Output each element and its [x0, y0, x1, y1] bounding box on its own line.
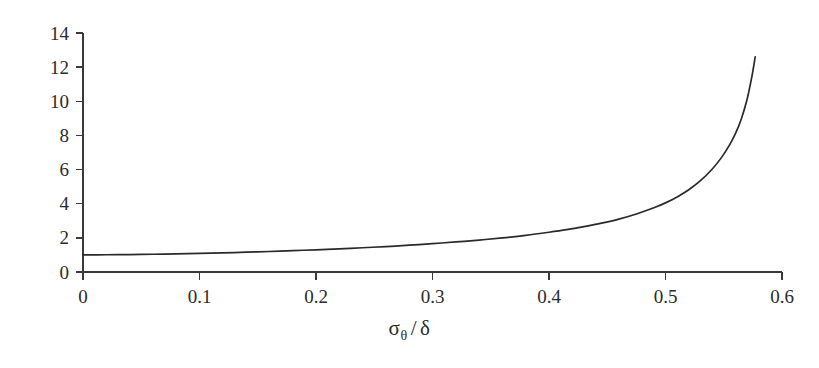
x-tick-label: 0.6	[770, 286, 794, 307]
y-tick-label: 10	[50, 91, 69, 112]
x-axis-label-subscript: θ	[400, 328, 407, 343]
x-tick-label: 0.5	[654, 286, 678, 307]
x-axis-label: σθ/δ	[0, 316, 819, 344]
y-tick-label: 0	[60, 262, 70, 283]
y-tick-label: 6	[60, 159, 70, 180]
x-tick-label: 0.1	[188, 286, 212, 307]
y-tick-label: 8	[60, 125, 70, 146]
chart-plot-svg: 02468101214 00.10.20.30.40.50.6	[0, 0, 819, 368]
x-tick-label: 0	[78, 286, 88, 307]
x-axis-label-denominator: δ	[420, 316, 430, 340]
x-axis-label-separator: /	[408, 316, 420, 340]
y-tick-label: 2	[60, 227, 70, 248]
y-tick-label: 12	[50, 57, 69, 78]
chart-figure: 02468101214 00.10.20.30.40.50.6 σθ/δ	[0, 0, 819, 368]
y-tick-label: 14	[50, 23, 70, 44]
x-tick-label: 0.3	[421, 286, 445, 307]
y-tick-label: 4	[60, 193, 70, 214]
x-tick-label: 0.4	[537, 286, 561, 307]
x-axis-label-base: σ	[389, 316, 401, 340]
x-tick-label: 0.2	[304, 286, 328, 307]
